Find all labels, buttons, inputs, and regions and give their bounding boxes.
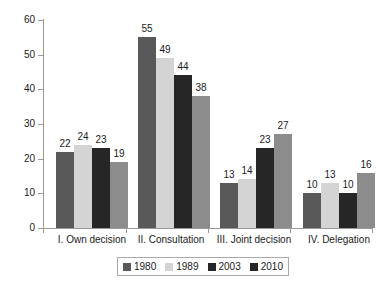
y-axis-tick-50 — [38, 55, 43, 56]
bar-value-label: 44 — [177, 62, 188, 72]
y-axis-label-20: 20 — [11, 154, 35, 164]
bar-1980-cat0[interactable]: 22 — [56, 152, 74, 228]
bar-group-3-bars: 10 13 10 16 — [303, 20, 375, 228]
bar-1989-cat2[interactable]: 14 — [238, 179, 256, 228]
bar-group-1-bars: 55 49 44 38 — [138, 20, 210, 228]
bar-group-0-bars: 22 24 23 19 — [56, 20, 128, 228]
legend-swatch-icon — [208, 263, 216, 271]
bar-2003-cat0[interactable]: 23 — [92, 148, 110, 228]
legend-label: 2010 — [261, 262, 283, 272]
bar-value-label: 13 — [324, 170, 335, 180]
bar-2010-cat0[interactable]: 19 — [110, 162, 128, 228]
bar-1989-cat1[interactable]: 49 — [156, 58, 174, 228]
y-axis-label-40: 40 — [11, 84, 35, 94]
y-axis-label-60: 60 — [11, 15, 35, 25]
legend-item-1989[interactable]: 1989 — [165, 262, 198, 272]
legend-swatch-icon — [123, 263, 131, 271]
bar-value-label: 23 — [95, 135, 106, 145]
y-axis-tick-40 — [38, 89, 43, 90]
bar-group-2-bars: 13 14 23 27 — [220, 20, 292, 228]
bar-1980-cat1[interactable]: 55 — [138, 37, 156, 228]
bar-1989-cat0[interactable]: 24 — [74, 145, 92, 228]
bar-value-label: 14 — [241, 166, 252, 176]
x-axis-category-2: III. Joint decision — [204, 234, 304, 245]
bar-value-label: 27 — [277, 121, 288, 131]
y-axis-label-0: 0 — [11, 223, 35, 233]
x-axis-tick-1 — [126, 228, 127, 233]
legend-swatch-icon — [250, 263, 258, 271]
bar-value-label: 16 — [360, 160, 371, 170]
x-axis-tick-end — [372, 228, 373, 233]
y-axis-label-10: 10 — [11, 188, 35, 198]
bar-2003-cat3[interactable]: 10 — [339, 193, 357, 228]
y-axis-line — [43, 19, 44, 229]
y-axis-label-50: 50 — [11, 50, 35, 60]
x-axis-tick-start — [43, 228, 44, 233]
bar-value-label: 49 — [159, 45, 170, 55]
legend-item-2003[interactable]: 2003 — [208, 262, 241, 272]
bar-value-label: 13 — [223, 170, 234, 180]
x-axis-category-3: IV. Delegation — [292, 234, 386, 245]
bar-2003-cat1[interactable]: 44 — [174, 75, 192, 228]
legend-label: 2003 — [219, 262, 241, 272]
bar-1980-cat3[interactable]: 10 — [303, 193, 321, 228]
legend-label: 1989 — [176, 262, 198, 272]
bar-value-label: 55 — [141, 24, 152, 34]
bar-value-label: 10 — [342, 180, 353, 190]
bar-1980-cat2[interactable]: 13 — [220, 183, 238, 228]
x-axis-tick-2 — [208, 228, 209, 233]
bar-value-label: 23 — [259, 135, 270, 145]
bar-value-label: 10 — [306, 180, 317, 190]
bar-value-label: 24 — [77, 132, 88, 142]
y-axis-tick-20 — [38, 159, 43, 160]
bar-value-label: 38 — [195, 83, 206, 93]
bar-2010-cat3[interactable]: 16 — [357, 173, 375, 228]
chart-legend: 1980 1989 2003 2010 — [117, 257, 289, 276]
y-axis-tick-30 — [38, 124, 43, 125]
x-axis-tick-3 — [290, 228, 291, 233]
legend-item-2010[interactable]: 2010 — [250, 262, 283, 272]
bar-value-label: 19 — [113, 149, 124, 159]
bar-2010-cat2[interactable]: 27 — [274, 134, 292, 228]
y-axis-tick-10 — [38, 193, 43, 194]
legend-label: 1980 — [134, 262, 156, 272]
bar-value-label: 22 — [59, 139, 70, 149]
y-axis-label-30: 30 — [11, 119, 35, 129]
legend-swatch-icon — [165, 263, 173, 271]
bar-2010-cat1[interactable]: 38 — [192, 96, 210, 228]
y-axis-tick-60 — [38, 20, 43, 21]
legend-item-1980[interactable]: 1980 — [123, 262, 156, 272]
bar-1989-cat3[interactable]: 13 — [321, 183, 339, 228]
bar-chart: 0 10 20 30 40 50 60 22 24 23 19 — [0, 0, 387, 285]
bar-2003-cat2[interactable]: 23 — [256, 148, 274, 228]
